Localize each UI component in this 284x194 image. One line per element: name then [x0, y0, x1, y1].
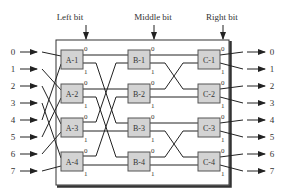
port-1-label: 1: [84, 102, 88, 110]
port-1-label: 1: [151, 68, 155, 76]
omega-network-diagram: Left bit Middle bit Right bit 0 1 2 3 4 …: [0, 0, 284, 194]
stage-b: B-1 B-2 B-3 B-4: [128, 50, 150, 171]
output-label-5: 5: [270, 132, 275, 142]
input-label-2: 2: [11, 81, 16, 91]
switch-label: B-1: [133, 56, 145, 65]
switch-label: C-3: [203, 124, 215, 133]
output-label-4: 4: [270, 115, 275, 125]
switch-label: C-1: [203, 56, 215, 65]
stage-a: A-1 A-2 A-3 A-4: [61, 50, 83, 171]
switch-label: B-4: [133, 158, 145, 167]
stage-c: C-1 C-2 C-3 C-4: [198, 50, 220, 171]
switch-label: A-4: [66, 158, 78, 167]
a-to-b-wires: [83, 55, 128, 165]
input-label-4: 4: [11, 115, 16, 125]
switch-label: B-2: [133, 90, 145, 99]
input-label-7: 7: [11, 166, 16, 176]
output-label-3: 3: [270, 98, 275, 108]
header-middle-bit: Middle bit: [134, 12, 172, 22]
output-label-2: 2: [270, 81, 275, 91]
input-label-3: 3: [11, 98, 16, 108]
port-1-label: 1: [151, 170, 155, 178]
input-to-a-wires: [42, 52, 61, 171]
port-1-label: 1: [221, 136, 225, 144]
port-0-label: 0: [221, 147, 225, 155]
port-1-label: 1: [221, 102, 225, 110]
switch-label: C-2: [203, 90, 215, 99]
inputs: 0 1 2 3 4 5 6 7: [11, 47, 37, 176]
port-1-label: 1: [151, 136, 155, 144]
port-0-label: 0: [84, 147, 88, 155]
port-0-label: 0: [151, 147, 155, 155]
port-0-label: 0: [221, 113, 225, 121]
input-label-6: 6: [11, 149, 16, 159]
input-label-0: 0: [11, 47, 16, 57]
header-right-bit: Right bit: [206, 12, 238, 22]
port-0-label: 0: [221, 79, 225, 87]
port-0-label: 0: [151, 113, 155, 121]
port-1-label: 1: [221, 170, 225, 178]
switch-label: B-3: [133, 124, 145, 133]
port-1-label: 1: [151, 102, 155, 110]
outputs: 0 1 2 3 4 5 6 7: [247, 47, 275, 176]
port-1-label: 1: [221, 68, 225, 76]
switch-label: C-4: [203, 158, 215, 167]
header-left-bit: Left bit: [57, 12, 84, 22]
port-0-label: 0: [84, 79, 88, 87]
output-label-0: 0: [270, 47, 275, 57]
output-label-7: 7: [270, 166, 275, 176]
switch-label: A-2: [66, 90, 78, 99]
input-label-1: 1: [11, 64, 16, 74]
port-0-label: 0: [151, 45, 155, 53]
switch-label: A-3: [66, 124, 78, 133]
port-0-label: 0: [151, 79, 155, 87]
switch-label: A-1: [66, 56, 78, 65]
output-label-1: 1: [270, 64, 275, 74]
port-1-label: 1: [84, 68, 88, 76]
port-0-label: 0: [84, 45, 88, 53]
output-label-6: 6: [270, 149, 275, 159]
port-0-label: 0: [84, 113, 88, 121]
b-to-c-wires: [150, 55, 198, 165]
port-0-label: 0: [221, 45, 225, 53]
input-label-5: 5: [11, 132, 16, 142]
port-1-label: 1: [84, 136, 88, 144]
port-1-label: 1: [84, 170, 88, 178]
